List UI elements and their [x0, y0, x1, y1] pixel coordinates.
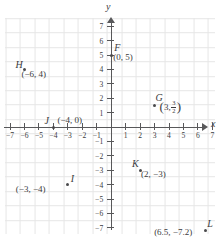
x-tick-mark [10, 123, 11, 130]
point-coordinate-label-f: (0, 5) [113, 52, 133, 62]
x-tick-label: 6 [191, 131, 205, 140]
y-tick-mark [107, 155, 114, 156]
y-tick-label: −3 [89, 166, 103, 175]
x-tick-label: −4 [46, 131, 60, 140]
y-tick-mark [107, 184, 114, 185]
x-tick-mark [24, 123, 25, 130]
point-name-label-k: K [132, 158, 139, 169]
y-tick-label: −5 [89, 195, 103, 204]
y-tick-label: −4 [89, 181, 103, 190]
x-tick-label: −7 [3, 131, 17, 140]
y-tick-label: −1 [89, 137, 103, 146]
y-tick-mark [107, 40, 114, 41]
y-tick-mark [107, 199, 114, 200]
y-tick-label: −6 [89, 209, 103, 218]
x-tick-label: 1 [119, 131, 133, 140]
coordinate-plane: x y −7−6−5−4−3−2−11234567 −7−6−5−4−3−2−1… [0, 0, 223, 238]
y-tick-mark [107, 141, 114, 142]
point-coordinate-label-k: (2, −3) [141, 169, 166, 179]
y-tick-label: 5 [89, 51, 103, 60]
x-tick-label: 3 [148, 131, 162, 140]
y-axis-arrow-icon [107, 17, 115, 23]
y-tick-mark [107, 69, 114, 70]
x-tick-label: −6 [18, 131, 32, 140]
plotted-point-j [52, 126, 55, 129]
point-name-label-i: I [71, 173, 74, 184]
y-tick-mark [107, 227, 114, 228]
x-tick-mark [38, 123, 39, 130]
y-tick-mark [107, 170, 114, 171]
x-axis-line [4, 127, 204, 128]
point-coordinate-label-l: (6.5, −7.2) [154, 227, 192, 237]
x-tick-mark [212, 123, 213, 130]
y-tick-label: 3 [89, 80, 103, 89]
y-axis-label: y [106, 1, 110, 12]
x-tick-label: −5 [32, 131, 46, 140]
x-tick-mark [197, 123, 198, 130]
point-name-label-j: J [44, 115, 48, 126]
x-tick-mark [183, 123, 184, 130]
x-tick-mark [154, 123, 155, 130]
y-tick-label: 7 [89, 22, 103, 31]
x-tick-mark [169, 123, 170, 130]
point-coordinate-label-h: (−6, 4) [22, 69, 47, 79]
x-tick-label: 7 [205, 131, 219, 140]
x-tick-mark [140, 123, 141, 130]
y-tick-mark [107, 213, 114, 214]
point-coordinate-label-j: (−4, 0) [57, 115, 82, 125]
y-tick-label: 1 [89, 109, 103, 118]
y-tick-label: −7 [89, 224, 103, 233]
y-tick-mark [107, 98, 114, 99]
x-tick-label: 4 [162, 131, 176, 140]
point-name-label-l: L [207, 218, 213, 229]
y-tick-label: 2 [89, 94, 103, 103]
x-tick-label: 5 [176, 131, 190, 140]
x-tick-label: 2 [133, 131, 147, 140]
y-tick-mark [107, 83, 114, 84]
y-tick-label: 4 [89, 65, 103, 74]
point-coordinate-label-i: (−3, −4) [16, 184, 46, 194]
x-tick-label: −2 [75, 131, 89, 140]
point-coordinate-label-g: (3,32) [160, 100, 182, 116]
x-tick-mark [125, 123, 126, 130]
y-tick-mark [107, 112, 114, 113]
x-axis-arrow-icon [202, 123, 208, 131]
y-tick-mark [107, 26, 114, 27]
x-tick-mark [96, 123, 97, 130]
y-tick-label: 6 [89, 37, 103, 46]
y-tick-label: −2 [89, 152, 103, 161]
x-tick-label: −3 [61, 131, 75, 140]
